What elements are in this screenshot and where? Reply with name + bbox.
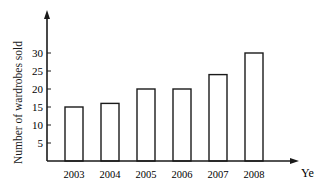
y-ticks-group: 51015202530 [32, 47, 51, 149]
bar-chart: 51015202530 200320042005200620072008 Yea… [0, 0, 314, 188]
x-labels-group: 200320042005200620072008 [64, 169, 265, 180]
bar-2003 [65, 107, 83, 161]
x-tick-label: 2006 [172, 169, 193, 180]
y-tick-label: 5 [38, 137, 44, 149]
x-tick-label: 2003 [64, 169, 85, 180]
bar-2005 [137, 89, 155, 161]
x-axis-label: Year [301, 166, 314, 180]
y-tick-label: 15 [32, 101, 44, 113]
x-tick-label: 2004 [100, 169, 122, 180]
y-axis-label: Number of wardrobes sold [12, 41, 24, 164]
bars-group [65, 53, 263, 161]
y-tick-label: 20 [32, 83, 44, 95]
y-axis-arrow-icon [44, 10, 50, 19]
y-tick-label: 30 [32, 47, 44, 59]
x-tick-label: 2007 [208, 169, 229, 180]
y-tick-label: 25 [32, 65, 44, 77]
bar-2008 [245, 53, 263, 161]
x-tick-label: 2005 [136, 169, 157, 180]
y-tick-label: 10 [32, 119, 44, 131]
bar-2007 [209, 75, 227, 161]
bar-2006 [173, 89, 191, 161]
x-tick-label: 2008 [244, 169, 265, 180]
x-axis-arrow-icon [290, 158, 299, 164]
bar-2004 [101, 103, 119, 161]
